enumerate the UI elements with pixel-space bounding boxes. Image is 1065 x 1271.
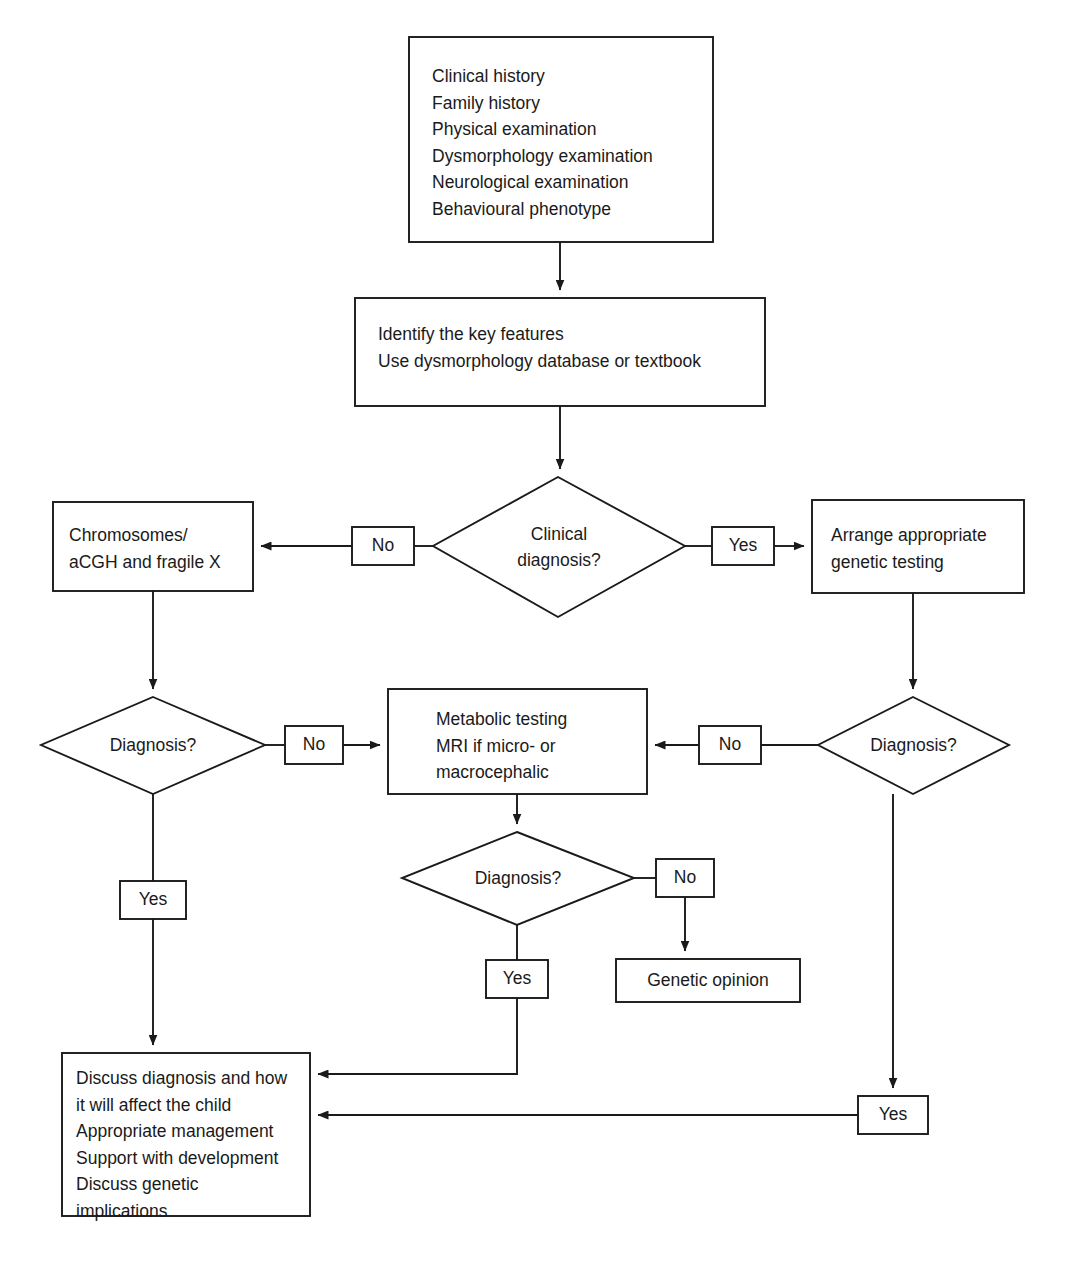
edge-label-clinical-no: No: [352, 527, 414, 565]
node-diagnosis-left-text: Diagnosis?: [41, 732, 265, 758]
node-genetic-opinion-text: Genetic opinion: [616, 967, 800, 994]
node-chromosomes-text: Chromosomes/ aCGH and fragile X: [69, 522, 249, 575]
edge-label-clinical-yes: Yes: [712, 527, 774, 565]
edge-label-centre-diagnosis-no: No: [656, 859, 714, 897]
node-chromosomes: Chromosomes/ aCGH and fragile X: [53, 502, 253, 591]
node-arrange-testing-text: Arrange appropriate genetic testing: [831, 522, 1021, 575]
edge-label-right-diagnosis-no-text: No: [699, 736, 761, 754]
node-diagnosis-right-text: Diagnosis?: [818, 732, 1009, 758]
page-right-margin: [1057, 0, 1065, 1271]
node-identify-features-text: Identify the key features Use dysmorphol…: [378, 321, 758, 374]
node-discuss-diagnosis-text: Discuss diagnosis and how it will affect…: [76, 1065, 310, 1225]
flowchart-canvas: Clinical history Family history Physical…: [0, 0, 1065, 1271]
edge-label-left-diagnosis-yes: Yes: [120, 881, 186, 919]
edge-label-centre-diagnosis-no-text: No: [656, 869, 714, 887]
edge-label-right-diagnosis-no: No: [699, 726, 761, 764]
edge-label-clinical-no-text: No: [352, 537, 414, 555]
node-diagnosis-right: Diagnosis?: [818, 697, 1009, 794]
node-arrange-testing: Arrange appropriate genetic testing: [812, 500, 1024, 593]
node-initial-assessment: Clinical history Family history Physical…: [409, 37, 713, 242]
edge-label-left-diagnosis-no: No: [285, 726, 343, 764]
node-identify-features: Identify the key features Use dysmorphol…: [355, 298, 765, 406]
node-clinical-diagnosis-text: Clinical diagnosis?: [433, 521, 685, 574]
node-genetic-opinion: Genetic opinion: [616, 959, 800, 1002]
node-discuss-diagnosis: Discuss diagnosis and how it will affect…: [62, 1053, 310, 1216]
edge-label-left-diagnosis-yes-text: Yes: [120, 891, 186, 909]
edge-label-right-diagnosis-yes-text: Yes: [858, 1106, 928, 1124]
edge-label-right-diagnosis-yes: Yes: [858, 1096, 928, 1134]
node-clinical-diagnosis: Clinical diagnosis?: [433, 477, 685, 617]
node-diagnosis-centre-text: Diagnosis?: [402, 865, 634, 891]
edge-label-centre-diagnosis-yes-text: Yes: [486, 970, 548, 988]
node-initial-assessment-text: Clinical history Family history Physical…: [432, 63, 702, 223]
edge-yes-label-to-discuss-centre: [318, 998, 517, 1074]
node-diagnosis-left: Diagnosis?: [41, 697, 265, 794]
node-diagnosis-centre: Diagnosis?: [402, 832, 634, 925]
node-metabolic-testing: Metabolic testing MRI if micro- or macro…: [388, 689, 647, 794]
node-metabolic-testing-text: Metabolic testing MRI if micro- or macro…: [436, 706, 646, 786]
edge-label-left-diagnosis-no-text: No: [285, 736, 343, 754]
edge-label-centre-diagnosis-yes: Yes: [486, 960, 548, 998]
edge-label-clinical-yes-text: Yes: [712, 537, 774, 555]
